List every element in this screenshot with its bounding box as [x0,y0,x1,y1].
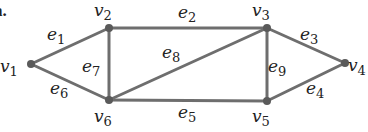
edge-label-e7-letter: e [82,56,92,76]
node-v3 [263,24,271,32]
edge-label-e7-subscript: 7 [92,64,100,79]
edge-label-e4-letter: e [306,78,316,98]
node-label-v2: v2 [94,0,112,23]
edge-label-e1-letter: e [47,24,57,44]
node-label-v2-letter: v [94,0,104,20]
node-label-v1-letter: v [0,56,10,76]
figure-label: a. [0,1,7,20]
node-label-v2-subscript: 2 [104,8,112,23]
node-label-v5-subscript: 5 [262,114,270,129]
edge-label-e1: e1 [47,24,65,47]
edge-label-e5-subscript: 5 [188,110,196,125]
node-v6 [105,96,113,104]
edge-label-e2: e2 [178,2,196,25]
node-label-v4: v4 [348,55,366,78]
edge-label-e5-letter: e [178,102,188,122]
edge-label-e6-letter: e [50,78,60,98]
edge-label-e3-letter: e [300,24,310,44]
node-label-v6-subscript: 6 [104,114,112,129]
node-v2 [105,24,113,32]
edge-e5 [109,100,267,101]
node-label-v1-subscript: 1 [10,64,18,79]
node-label-v5: v5 [252,106,270,129]
edge-label-e8: e8 [162,42,180,65]
edge-label-e3-subscript: 3 [310,32,318,47]
edge-label-e5: e5 [178,102,196,125]
edge-e1 [31,28,109,64]
node-label-v3-letter: v [252,0,262,20]
graph-diagram: a. e1e2e3e4e5e6e7e8e9 v1v2v3v4v5v6 [0,0,368,132]
node-label-v6-letter: v [94,106,104,126]
edge-label-e9: e9 [268,56,286,79]
edge-label-e2-subscript: 2 [188,10,196,25]
node-label-v1: v1 [0,56,18,79]
edge-label-e8-letter: e [162,42,172,62]
edge-label-e9-letter: e [268,56,278,76]
edge-label-e6-subscript: 6 [60,86,68,101]
node-label-v6: v6 [94,106,112,129]
node-v5 [263,97,271,105]
edge-label-e7: e7 [82,56,100,79]
edge-label-e2-letter: e [178,2,188,22]
edge-label-e1-subscript: 1 [57,32,65,47]
edge-label-e3: e3 [300,24,318,47]
edge-label-e4-subscript: 4 [316,86,324,101]
node-label-v4-letter: v [348,55,358,75]
edge-label-e9-subscript: 9 [278,64,286,79]
edge-label-e8-subscript: 8 [172,50,180,65]
edges-layer [31,28,345,101]
edge-label-e4: e4 [306,78,324,101]
node-v1 [27,60,35,68]
node-label-v4-subscript: 4 [358,63,366,78]
edge-e8 [109,28,267,100]
node-label-v3: v3 [252,0,270,23]
node-label-v3-subscript: 3 [262,8,270,23]
node-label-v5-letter: v [252,106,262,126]
